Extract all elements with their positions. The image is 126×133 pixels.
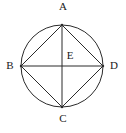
vertex-label-a: A bbox=[57, 1, 69, 12]
vertex-label-c: C bbox=[57, 113, 69, 124]
vertex-point-a bbox=[61, 24, 63, 26]
chord-bc bbox=[21, 66, 62, 107]
chord-cd bbox=[62, 66, 103, 107]
vertex-label-b: B bbox=[4, 60, 16, 71]
vertex-label-e: E bbox=[64, 50, 76, 61]
vertex-point-b bbox=[20, 65, 22, 67]
vertex-label-d: D bbox=[108, 60, 120, 71]
geometry-figure: A B C D E bbox=[0, 0, 126, 133]
vertex-point-d bbox=[102, 65, 104, 67]
chord-ab bbox=[21, 25, 62, 66]
vertex-point-c bbox=[61, 106, 63, 108]
